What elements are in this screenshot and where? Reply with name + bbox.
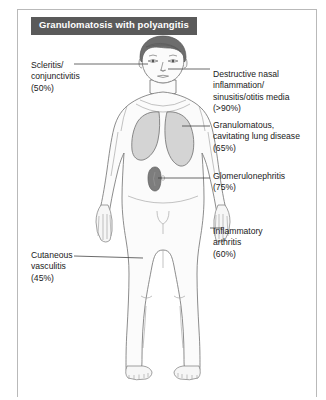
- label-glomerulonephritis: Glomerulonephritis (75%): [213, 171, 321, 194]
- label-scleritis-conjunctivitis: Scleritis/ conjunctivitis (50%): [31, 60, 126, 94]
- label-inflammatory-arthritis: Inflammatory arthritis (60%): [213, 226, 313, 260]
- body-outline: [101, 80, 226, 375]
- head: [139, 36, 187, 83]
- figure-container: Granulomatosis with polyangitis .skin { …: [0, 0, 326, 400]
- label-cutaneous-vasculitis: Cutaneous vasculitis (45%): [31, 250, 126, 284]
- label-granulomatous-cavitating-lung-disease: Granulomatous, cavitating lung disease (…: [213, 120, 323, 154]
- label-destructive-nasal-inflammation: Destructive nasal inflammation/ sinusiti…: [213, 69, 321, 115]
- feet: [126, 366, 201, 380]
- organ-kidney: [148, 167, 161, 191]
